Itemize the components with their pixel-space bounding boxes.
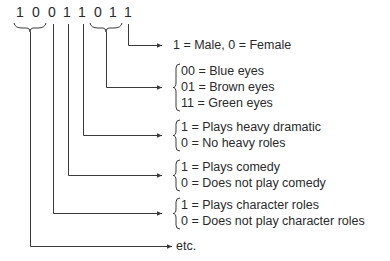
label-character-yes: 1 = Plays character roles — [181, 198, 319, 213]
label-eyes-green: 11 = Green eyes — [181, 96, 273, 111]
brace-dramatic — [173, 120, 180, 151]
label-comedy-no: 0 = Does not play comedy — [181, 176, 326, 191]
label-comedy-yes: 1 = Plays comedy — [181, 160, 280, 175]
line-eyes — [107, 32, 163, 88]
label-eyes-blue: 00 = Blue eyes — [181, 64, 264, 79]
line-dramatic — [84, 24, 163, 136]
line-etc — [31, 32, 173, 247]
brace-eyes — [173, 64, 180, 111]
brace-comedy — [173, 160, 180, 191]
underbrace-bits-0-1 — [14, 23, 46, 32]
label-dramatic-no: 0 = No heavy roles — [181, 136, 286, 151]
label-etc: etc. — [176, 239, 196, 254]
label-dramatic-yes: 1 = Plays heavy dramatic — [181, 120, 321, 135]
line-character — [54, 24, 163, 214]
brace-character — [173, 198, 180, 229]
label-eyes-brown: 01 = Brown eyes — [181, 80, 274, 95]
underbrace-bits-5-6 — [90, 23, 122, 32]
line-sex — [129, 24, 163, 46]
label-sex: 1 = Male, 0 = Female — [173, 38, 291, 53]
label-character-no: 0 = Does not play character roles — [181, 214, 365, 229]
line-comedy — [69, 24, 163, 176]
